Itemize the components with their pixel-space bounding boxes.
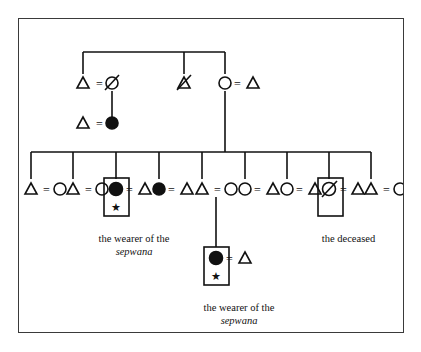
female-circle-icon [225, 183, 237, 195]
female-circle-icon [281, 183, 293, 195]
g3-sibling-bar [31, 152, 371, 179]
marriage-equals-icon: = [214, 183, 221, 197]
caption-wearer-lower: the wearer of the sepwana [164, 302, 314, 327]
g3-unit-6: = [239, 183, 279, 197]
g3-unit-7: = [281, 183, 321, 197]
male-triangle-icon [77, 77, 89, 88]
sepwana-star-icon: ★ [211, 270, 221, 283]
g3-unit-8-deceased: = [318, 178, 364, 216]
marriage-equals-icon: = [126, 183, 133, 197]
diagram-frame: = = = [18, 18, 404, 333]
male-triangle-icon [247, 77, 259, 88]
female-filled-circle-icon [153, 183, 165, 195]
marriage-equals-icon: = [254, 183, 261, 197]
male-triangle-icon [196, 183, 208, 194]
marriage-equals-icon: = [96, 117, 103, 131]
g3-unit-2: = [67, 183, 108, 197]
caption-wearer-lower-line1: the wearer of the [164, 302, 314, 315]
g1-unit-2 [177, 75, 191, 90]
male-triangle-icon [365, 183, 377, 194]
marriage-equals-icon: = [168, 183, 175, 197]
female-filled-circle-icon [210, 252, 223, 265]
g4-unit-1-wearer: ★ = [204, 247, 251, 285]
caption-deceased: the deceased [291, 233, 406, 246]
marriage-equals-icon: = [43, 183, 50, 197]
caption-wearer-upper-italic: sepwana [59, 246, 209, 259]
g3-unit-9: = [365, 183, 403, 197]
marriage-equals-icon: = [85, 183, 92, 197]
female-circle-icon [239, 183, 251, 195]
male-triangle-icon [181, 183, 193, 194]
female-filled-circle-icon [106, 117, 118, 129]
male-triangle-icon [139, 183, 151, 194]
male-triangle-icon [309, 183, 321, 194]
g3-unit-1: = [25, 183, 66, 197]
caption-wearer-lower-italic: sepwana [164, 315, 314, 328]
g3-unit-3-wearer: ★ = [104, 178, 151, 216]
g1-descent-bar [83, 52, 225, 74]
male-triangle-icon [77, 117, 89, 128]
marriage-equals-icon: = [383, 183, 390, 197]
female-filled-circle-icon [110, 183, 123, 196]
male-triangle-icon [25, 183, 37, 194]
sepwana-star-icon: ★ [111, 201, 121, 214]
kinship-chart-canvas: = = = [19, 19, 403, 332]
g2-unit-1: = [77, 117, 118, 131]
male-triangle-icon [352, 183, 364, 194]
caption-deceased-text: the deceased [291, 233, 406, 246]
g1-unit-1: = [77, 75, 119, 91]
female-circle-icon [394, 183, 403, 195]
marriage-equals-icon: = [96, 77, 103, 91]
marriage-equals-icon: = [226, 252, 233, 266]
marriage-equals-icon: = [340, 183, 347, 197]
female-circle-icon [54, 183, 66, 195]
diagram-page: = = = [0, 0, 421, 352]
female-circle-icon [219, 77, 231, 89]
male-triangle-icon [67, 183, 79, 194]
male-triangle-icon [267, 183, 279, 194]
g1-unit-3: = [219, 77, 259, 91]
caption-wearer-upper-line1: the wearer of the [59, 233, 209, 246]
g3-unit-4: = [153, 183, 193, 197]
female-circle-icon [96, 183, 108, 195]
marriage-equals-icon: = [296, 183, 303, 197]
caption-wearer-upper: the wearer of the sepwana [59, 233, 209, 258]
marriage-equals-icon: = [234, 77, 241, 91]
male-triangle-icon [239, 252, 251, 263]
